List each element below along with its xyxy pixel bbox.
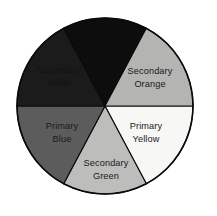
segment-label-line2-secondary-violet: Violet <box>47 78 71 88</box>
segment-label-line2-secondary-green: Green <box>93 171 119 181</box>
segment-label-line2-primary-red: Red <box>98 49 115 59</box>
segment-label-line1-secondary-green: Secondary <box>84 158 129 168</box>
segment-label-line1-secondary-orange: Secondary <box>128 66 173 76</box>
color-wheel-svg: PrimaryYellowSecondaryGreenPrimaryBlueSe… <box>0 0 217 216</box>
segment-label-line1-primary-yellow: Primary <box>130 121 163 131</box>
color-wheel-figure: PrimaryYellowSecondaryGreenPrimaryBlueSe… <box>0 0 217 216</box>
segment-label-line1-secondary-violet: Secondary <box>37 65 82 75</box>
segment-label-line1-primary-blue: Primary <box>46 121 79 131</box>
segment-label-line2-primary-blue: Blue <box>53 134 72 144</box>
segment-label-line1-primary-red: Primary <box>91 36 124 46</box>
segment-label-line2-primary-yellow: Yellow <box>133 134 160 144</box>
segment-label-line2-secondary-orange: Orange <box>134 79 165 89</box>
